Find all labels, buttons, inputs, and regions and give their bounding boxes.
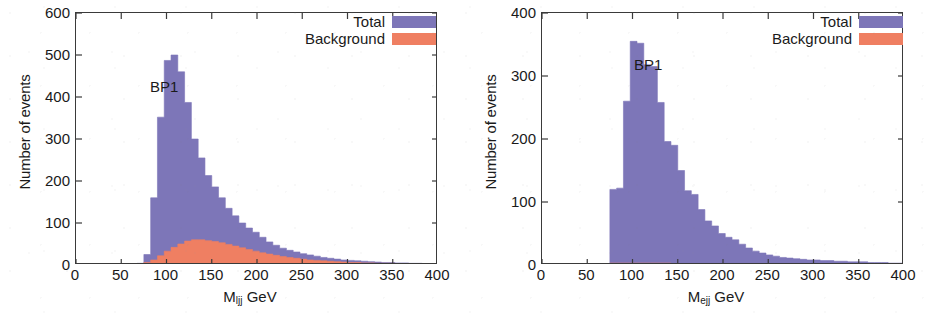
legend-swatch-total-right <box>859 16 903 28</box>
y-tick-label: 100 <box>45 214 70 231</box>
x-tick-label: 50 <box>112 266 129 283</box>
y-tick-label: 300 <box>45 130 70 147</box>
legend-left: Total Background <box>305 14 436 46</box>
y-tick-label: 600 <box>45 4 70 21</box>
legend-row-background-left: Background <box>305 31 436 46</box>
x-tick-label: 350 <box>845 266 870 283</box>
figure-two-panel-histograms: Number of events 0100200300400500600 050… <box>0 0 933 313</box>
x-tick-label: 100 <box>153 266 178 283</box>
legend-label-total-left: Total <box>353 14 385 29</box>
legend-row-total-left: Total <box>305 14 436 29</box>
axis-tickmarks-left <box>76 13 437 264</box>
x-tick-label: 150 <box>198 266 223 283</box>
x-tick-label: 50 <box>578 266 595 283</box>
legend-label-background-left: Background <box>305 31 385 46</box>
plot-area-right <box>541 12 903 264</box>
x-tick-label: 0 <box>71 266 79 283</box>
x-tick-label: 0 <box>537 266 545 283</box>
x-tick-label: 350 <box>379 266 404 283</box>
legend-right: Total Background <box>772 14 903 46</box>
x-tick-label: 250 <box>755 266 780 283</box>
x-axis-label-right: Mejj GeV <box>688 288 745 306</box>
legend-label-background-right: Background <box>772 31 852 46</box>
legend-label-total-right: Total <box>820 14 852 29</box>
x-axis-label-right-unit: GeV <box>710 288 744 305</box>
x-axis-label-right-main: M <box>688 288 701 305</box>
y-tick-label: 400 <box>511 4 536 21</box>
y-tick-label: 300 <box>511 67 536 84</box>
legend-swatch-background-left <box>392 33 436 45</box>
y-tick-label: 500 <box>45 46 70 63</box>
y-tick-label: 200 <box>511 130 536 147</box>
y-tick-label: 200 <box>45 172 70 189</box>
x-tick-label: 400 <box>424 266 449 283</box>
x-tick-label: 200 <box>243 266 268 283</box>
x-axis-label-left: Mljj GeV <box>223 288 276 306</box>
y-tick-label: 100 <box>511 193 536 210</box>
panel-mljj: Number of events 0100200300400500600 050… <box>0 0 466 313</box>
panel-mejj: Number of events 0100200300400 050100150… <box>466 0 933 313</box>
x-tick-label: 250 <box>289 266 314 283</box>
legend-row-total-right: Total <box>772 14 903 29</box>
x-tick-label: 300 <box>800 266 825 283</box>
x-tick-label: 400 <box>890 266 915 283</box>
x-tick-label: 300 <box>334 266 359 283</box>
legend-swatch-total-left <box>392 16 436 28</box>
annotation-bp1-left: BP1 <box>150 78 178 95</box>
x-axis-label-left-unit: GeV <box>242 288 276 305</box>
legend-row-background-right: Background <box>772 31 903 46</box>
annotation-bp1-right: BP1 <box>634 56 662 73</box>
y-tick-label: 400 <box>45 88 70 105</box>
x-tick-label: 150 <box>664 266 689 283</box>
plot-area-left <box>75 12 437 264</box>
x-axis-label-left-main: M <box>223 288 236 305</box>
axis-tickmarks-right <box>542 13 903 264</box>
x-axis-label-right-sub: ejj <box>700 295 710 306</box>
x-axis-ticks-right: 050100150200250300350400 <box>466 266 933 288</box>
x-axis-ticks-left: 050100150200250300350400 <box>0 266 466 288</box>
legend-swatch-background-right <box>859 33 903 45</box>
histogram-series-background-right <box>610 263 903 264</box>
x-tick-label: 200 <box>709 266 734 283</box>
x-tick-label: 100 <box>619 266 644 283</box>
